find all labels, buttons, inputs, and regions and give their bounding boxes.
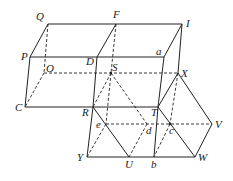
vertex-dots [110, 72, 171, 125]
label-S: S [112, 61, 118, 73]
label-U: U [125, 158, 134, 170]
label-R: R [81, 106, 89, 118]
label-I: I [185, 17, 191, 29]
label-e: e [96, 118, 101, 130]
label-d: d [146, 124, 152, 136]
label-a: a [156, 45, 162, 57]
label-c: c [169, 124, 174, 136]
label-X: X [180, 67, 189, 79]
label-b: b [151, 158, 157, 170]
label-Y: Y [77, 151, 85, 163]
solid-edges [25, 24, 212, 157]
geometry-diagram: Q F I P D a O S X C R T e d c V Y U b W [0, 0, 233, 181]
label-W: W [198, 151, 208, 163]
label-V: V [215, 118, 223, 130]
label-P: P [20, 50, 28, 62]
label-F: F [112, 8, 120, 20]
label-T: T [151, 106, 158, 118]
hidden-edges [25, 24, 212, 157]
label-O: O [46, 62, 54, 74]
label-Q: Q [36, 10, 44, 22]
label-D: D [85, 55, 94, 67]
label-C: C [15, 101, 23, 113]
point-labels: Q F I P D a O S X C R T e d c V Y U b W [15, 8, 223, 170]
